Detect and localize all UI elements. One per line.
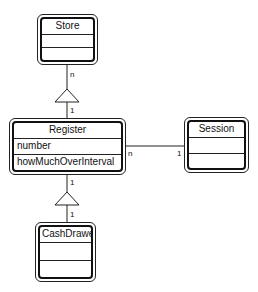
class-register[interactable]: Register number howMuchOverInterval <box>9 118 126 175</box>
operations-section <box>189 154 244 169</box>
multiplicity-label: 1 <box>70 210 74 219</box>
class-cashdrawer[interactable]: CashDrawer <box>35 222 96 282</box>
multiplicity-label: n <box>128 149 132 158</box>
multiplicity-label: 1 <box>70 106 74 115</box>
attributes-section <box>42 35 93 48</box>
operations-section <box>42 48 93 60</box>
generalization-triangle-icon <box>55 192 79 205</box>
multiplicity-label: 1 <box>70 178 74 187</box>
class-session[interactable]: Session <box>184 117 249 173</box>
class-name: CashDrawer <box>40 227 91 243</box>
class-name: Store <box>42 19 93 35</box>
generalization-triangle-icon <box>55 89 79 102</box>
attribute-number: number <box>14 139 121 155</box>
class-store[interactable]: Store <box>37 14 98 65</box>
attributes-section <box>40 243 91 261</box>
operations-section <box>40 261 91 278</box>
operation-how-much-over-interval: howMuchOverInterval <box>14 155 121 170</box>
class-name: Session <box>189 122 244 138</box>
attributes-section <box>189 138 244 154</box>
multiplicity-label: n <box>70 70 74 79</box>
multiplicity-label: 1 <box>177 149 181 158</box>
uml-class-diagram: Store Register number howMuchOverInterva… <box>0 0 258 292</box>
class-name: Register <box>14 123 121 139</box>
